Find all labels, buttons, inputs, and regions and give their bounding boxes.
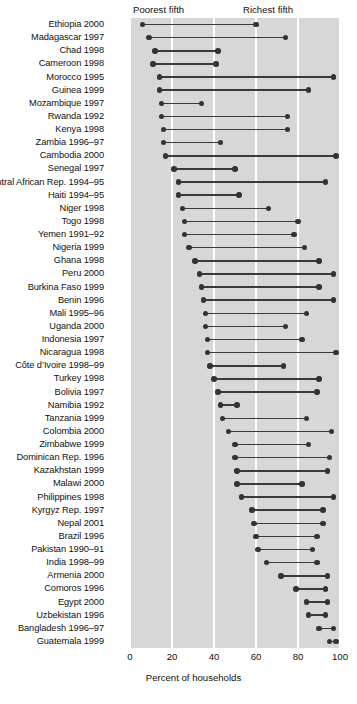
range-connector <box>174 168 235 169</box>
chart-row: Uganda 2000 <box>0 320 357 333</box>
chart-row: Colombia 2000 <box>0 425 357 438</box>
poorest-fifth-dot <box>234 468 240 474</box>
poorest-fifth-dot <box>264 560 270 566</box>
row-label-26: Côte d’Ivoire 1998–99 <box>15 359 104 372</box>
chart-row: Nicaragua 1998 <box>0 346 357 359</box>
chart-row: Egypt 2000 <box>0 596 357 609</box>
chart-row: Benin 1996 <box>0 294 357 307</box>
poorest-fifth-dot <box>186 245 192 251</box>
richest-fifth-dot <box>283 324 289 330</box>
row-label-28: Bolivia 1997 <box>55 386 104 399</box>
poorest-fifth-dot <box>306 612 312 618</box>
row-label-24: Indonesia 1997 <box>42 333 104 346</box>
range-connector <box>214 378 319 379</box>
poorest-fifth-dot <box>180 206 186 212</box>
richest-fifth-dot <box>299 337 305 343</box>
richest-fifth-dot <box>325 468 331 474</box>
richest-fifth-dot <box>314 389 320 395</box>
chart-row: Bangladesh 1996–97 <box>0 622 357 635</box>
range-connector <box>208 339 303 340</box>
richest-fifth-dot <box>306 442 312 448</box>
poorest-fifth-dot <box>201 297 207 303</box>
chart-row: Madagascar 1997 <box>0 31 357 44</box>
range-connector <box>159 89 308 90</box>
row-label-33: Dominican Rep. 1996 <box>16 451 104 464</box>
richest-fifth-dot <box>325 573 331 579</box>
chart-row: Kenya 1998 <box>0 123 357 136</box>
row-label-11: Senegal 1997 <box>48 162 104 175</box>
poorest-fifth-dot <box>163 153 169 159</box>
chart-row: Mozambique 1997 <box>0 97 357 110</box>
richest-fifth-dot <box>327 455 333 461</box>
row-label-12: Central African Rep. 1994–95 <box>0 176 104 189</box>
poorest-fifth-dot <box>157 87 163 93</box>
range-connector <box>204 299 334 300</box>
chart-row: Dominican Rep. 1996 <box>0 451 357 464</box>
range-connector <box>178 194 239 195</box>
richest-fifth-dot <box>314 560 320 566</box>
richest-fifth-dot <box>331 494 337 500</box>
row-label-10: Cambodia 2000 <box>40 149 104 162</box>
chart-row: Kazakhstan 1999 <box>0 464 357 477</box>
poorest-fifth-dot <box>232 442 238 448</box>
richest-fifth-dot <box>266 206 272 212</box>
chart-row: Philippines 1998 <box>0 491 357 504</box>
poorest-fifth-dot <box>234 481 240 487</box>
range-connector <box>281 575 327 576</box>
poorest-fifth-dot <box>205 350 211 356</box>
row-label-43: Comoros 1996 <box>44 582 104 595</box>
chart-row: Chad 1998 <box>0 44 357 57</box>
range-connector <box>199 273 333 274</box>
poorest-fifth-dot <box>255 547 261 553</box>
chart-row: Yemen 1991–92 <box>0 228 357 241</box>
chart-row: Brazil 1996 <box>0 530 357 543</box>
richest-fifth-dot <box>320 507 326 513</box>
range-connector <box>178 181 325 182</box>
poorest-fifth-dot <box>171 166 177 172</box>
poorest-fifth-dot <box>316 626 322 632</box>
poorest-fifth-dot <box>215 389 221 395</box>
row-label-37: Kyrgyz Rep. 1997 <box>32 504 104 517</box>
chart-row: Turkey 1998 <box>0 372 357 385</box>
chart-row: Côte d’Ivoire 1998–99 <box>0 359 357 372</box>
richest-fifth-dot <box>331 74 337 80</box>
row-label-39: Brazil 1996 <box>59 530 104 543</box>
chart-row: Nigeria 1999 <box>0 241 357 254</box>
row-label-16: Yemen 1991–92 <box>38 228 104 241</box>
chart-row: India 1998–99 <box>0 556 357 569</box>
poorest-fifth-dot <box>239 494 245 500</box>
richest-fifth-dot <box>291 232 297 238</box>
range-connector <box>162 103 202 104</box>
poorest-fifth-dot <box>161 140 167 146</box>
chart-row: Guinea 1999 <box>0 84 357 97</box>
chart-row: Haiti 1994–95 <box>0 189 357 202</box>
row-label-22: Mali 1995–96 <box>49 307 104 320</box>
row-label-36: Philippines 1998 <box>37 491 104 504</box>
row-label-38: Nepal 2001 <box>57 517 104 530</box>
range-connector <box>162 116 288 117</box>
range-connector <box>237 483 302 484</box>
poorest-fifth-dot <box>157 74 163 80</box>
richest-fifth-dot <box>333 639 339 645</box>
richest-fifth-dot <box>333 350 339 356</box>
range-connector <box>164 142 221 143</box>
chart-row: Senegal 1997 <box>0 162 357 175</box>
poorest-fifth-dot <box>249 507 255 513</box>
poorest-fifth-dot <box>159 101 165 107</box>
row-label-45: Uzbekistan 1996 <box>36 609 104 622</box>
richest-fifth-dot <box>285 127 291 133</box>
row-label-41: India 1998–99 <box>46 556 104 569</box>
x-tick-80: 80 <box>293 651 304 662</box>
poorest-fifth-dot <box>199 284 205 290</box>
richest-fifth-dot <box>320 521 326 527</box>
richest-fifth-dot <box>306 87 312 93</box>
row-label-47: Guatemala 1999 <box>37 635 104 648</box>
range-connector <box>208 352 336 353</box>
richest-fifth-dot <box>329 429 335 435</box>
row-label-20: Burkina Faso 1999 <box>28 281 104 294</box>
row-label-46: Bangladesh 1996–97 <box>18 622 104 635</box>
richest-fifth-dot <box>323 179 329 185</box>
richest-fifth-dot <box>314 534 320 540</box>
range-connector <box>235 457 330 458</box>
x-tick-60: 60 <box>251 651 262 662</box>
